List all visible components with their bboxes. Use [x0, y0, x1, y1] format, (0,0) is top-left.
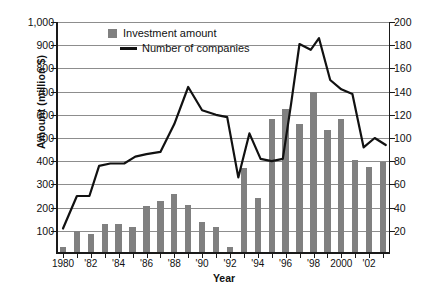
y-axis-left-tick-label: 400	[4, 156, 54, 167]
y-axis-left-tick-mark	[51, 161, 56, 162]
line-series	[56, 22, 390, 254]
y-axis-right-tick-label: 120	[394, 110, 442, 121]
y-axis-left-tick-label: 1,000	[4, 17, 54, 28]
x-axis-tick-mark	[355, 254, 356, 258]
line-path	[63, 38, 386, 228]
y-axis-right-tick-label: 60	[394, 179, 442, 190]
y-axis-right-tick-label: 40	[394, 203, 442, 214]
x-axis-tick-mark	[133, 254, 134, 258]
x-axis-tick-mark	[244, 254, 245, 258]
y-axis-left-tick-label: 200	[4, 203, 54, 214]
y-axis-right-tick-mark	[390, 231, 395, 232]
y-axis-right-tick-mark	[390, 68, 395, 69]
x-axis-tick-label: '02	[351, 259, 387, 269]
y-axis-right-tick-mark	[390, 22, 395, 23]
y-axis-right-tick-label: 180	[394, 40, 442, 51]
y-axis-right-tick-mark	[390, 45, 395, 46]
y-axis-left-tick-mark	[51, 208, 56, 209]
legend-label-number-of-companies: Number of companies	[142, 43, 250, 54]
x-axis-tick-mark	[327, 254, 328, 258]
y-axis-left-tick-mark	[51, 184, 56, 185]
y-axis-left-tick-mark	[51, 115, 56, 116]
y-axis-left-tick-mark	[51, 138, 56, 139]
y-axis-left-tick-mark	[51, 231, 56, 232]
y-axis-right-tick-label: 140	[394, 87, 442, 98]
y-axis-left-tick-mark	[51, 92, 56, 93]
plot-area	[56, 22, 390, 254]
y-axis-left-tick-label: 300	[4, 179, 54, 190]
legend-item-investment-amount: Investment amount	[108, 26, 250, 41]
x-axis-tick-mark	[105, 254, 106, 258]
y-axis-right-tick-label: 20	[394, 226, 442, 237]
y-axis-right-tick-label: 80	[394, 156, 442, 167]
y-axis-right-tick-mark	[390, 208, 395, 209]
x-axis-tick-mark	[188, 254, 189, 258]
y-axis-right-tick-label: 160	[394, 63, 442, 74]
y-axis-left-tick-mark	[51, 22, 56, 23]
bar-swatch-icon	[108, 29, 117, 38]
x-axis-tick-mark	[272, 254, 273, 258]
x-axis-tick-mark	[216, 254, 217, 258]
y-axis-left-tick-mark	[51, 45, 56, 46]
x-axis-tick-mark	[77, 254, 78, 258]
x-axis-line	[56, 252, 390, 254]
y-axis-left-title: Amount (million $)	[35, 55, 47, 149]
y-axis-right-tick-mark	[390, 115, 395, 116]
y-axis-left-line	[56, 22, 58, 254]
x-axis-tick-mark	[300, 254, 301, 258]
legend-item-number-of-companies: Number of companies	[120, 41, 250, 56]
x-axis-tick-mark	[383, 254, 384, 258]
chart-legend: Investment amount Number of companies	[108, 26, 250, 56]
y-axis-right-tick-mark	[390, 184, 395, 185]
y-axis-right-tick-label: 200	[394, 17, 442, 28]
y-axis-left-tick-label: 100	[4, 226, 54, 237]
y-axis-left-tick-mark	[51, 68, 56, 69]
x-axis-title: Year	[0, 272, 448, 284]
y-axis-right-tick-label: 100	[394, 133, 442, 144]
x-axis-tick-mark	[160, 254, 161, 258]
investment-companies-chart: 1002003004005006007008009001,000 2040608…	[0, 0, 448, 297]
y-axis-left-tick-label: 900	[4, 40, 54, 51]
y-axis-right-tick-mark	[390, 92, 395, 93]
line-swatch-icon	[120, 47, 137, 50]
y-axis-right-tick-mark	[390, 138, 395, 139]
legend-label-investment-amount: Investment amount	[123, 28, 217, 39]
y-axis-right-tick-mark	[390, 161, 395, 162]
